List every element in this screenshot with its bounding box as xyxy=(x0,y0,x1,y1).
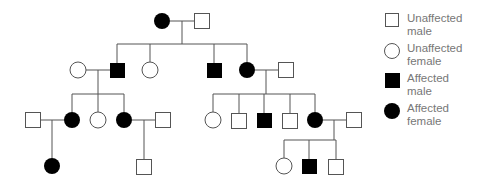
unaffected-female-III-2 xyxy=(90,112,106,128)
legend-label: Unaffected female xyxy=(407,42,462,68)
legend-label-line1: Unaffected xyxy=(407,12,462,25)
legend-label: Affected female xyxy=(407,102,449,128)
unaffected-female-II-spouse-1 xyxy=(70,62,86,78)
unaffected-male-I-2 xyxy=(195,14,210,29)
affected-male-II-1 xyxy=(110,63,125,78)
unaffected-female-IV-3 xyxy=(276,158,292,174)
legend-item-unaffected-female: Unaffected female xyxy=(382,42,480,72)
unaffected-male-IV-2 xyxy=(137,160,152,175)
legend-label-line2: male xyxy=(407,25,462,38)
open-square-icon xyxy=(385,13,399,27)
unaffected-male-III-spouse-3 xyxy=(347,113,362,128)
affected-male-III-6 xyxy=(257,113,272,128)
unaffected-female-II-2 xyxy=(142,62,158,78)
legend-label-line2: female xyxy=(407,55,462,68)
open-circle-icon xyxy=(384,43,400,59)
filled-circle-icon xyxy=(384,103,400,119)
affected-female-III-8 xyxy=(307,112,323,128)
unaffected-male-III-7 xyxy=(283,114,298,129)
legend-label-line2: female xyxy=(407,115,449,128)
affected-female-I-1 xyxy=(154,13,170,29)
legend-item-affected-female: Affected female xyxy=(382,102,480,132)
affected-male-IV-4 xyxy=(302,159,317,174)
affected-female-IV-1 xyxy=(44,158,60,174)
legend-label-line1: Unaffected xyxy=(407,42,462,55)
connector-lines xyxy=(40,21,346,159)
affected-female-III-3 xyxy=(116,112,132,128)
unaffected-female-III-4 xyxy=(205,112,221,128)
legend-label-line2: male xyxy=(407,85,449,98)
unaffected-male-II-spouse-2 xyxy=(279,63,294,78)
unaffected-male-IV-5 xyxy=(329,160,344,175)
legend: Unaffected male Unaffected female Affect… xyxy=(382,12,480,132)
legend-label: Unaffected male xyxy=(407,12,462,38)
affected-male-II-3 xyxy=(207,63,222,78)
affected-female-II-4 xyxy=(239,62,255,78)
legend-label: Affected male xyxy=(407,72,449,98)
legend-item-affected-male: Affected male xyxy=(382,72,480,102)
legend-label-line1: Affected xyxy=(407,72,449,85)
unaffected-male-III-5 xyxy=(232,114,247,129)
unaffected-male-III-spouse-2 xyxy=(156,113,171,128)
filled-square-icon xyxy=(385,73,400,88)
legend-item-unaffected-male: Unaffected male xyxy=(382,12,480,42)
unaffected-male-III-spouse-1 xyxy=(26,113,41,128)
pedigree-chart xyxy=(0,0,380,185)
legend-label-line1: Affected xyxy=(407,102,449,115)
affected-female-III-1 xyxy=(64,112,80,128)
